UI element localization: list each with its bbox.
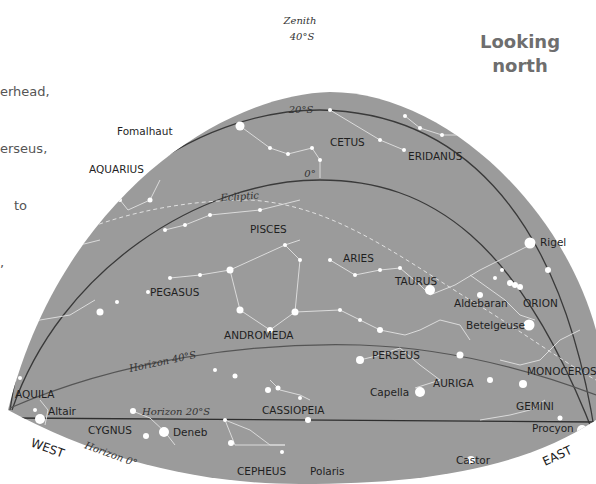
constellation-cetus: CETUS bbox=[330, 136, 365, 148]
view-title: Looking north bbox=[455, 30, 585, 78]
constellation-taurus: TAURUS bbox=[394, 275, 437, 287]
star-rigel: Rigel bbox=[540, 236, 566, 248]
horizon-20s-label: Horizon 20°S bbox=[141, 406, 210, 417]
constellation-aquarius: AQUARIUS bbox=[89, 163, 144, 175]
lat0-label: 0° bbox=[304, 168, 315, 179]
title-line-2: north bbox=[455, 54, 585, 78]
constellation-cepheus: CEPHEUS bbox=[237, 465, 287, 477]
constellation-andromeda: ANDROMEDA bbox=[224, 329, 294, 341]
title-line-1: Looking bbox=[455, 30, 585, 54]
constellation-aquila: AQUILA bbox=[15, 388, 55, 400]
star-betelgeuse: Betelgeuse bbox=[466, 319, 525, 331]
star-deneb: Deneb bbox=[173, 426, 208, 438]
constellation-perseus: PERSEUS bbox=[372, 349, 420, 361]
constellation-aries: ARIES bbox=[343, 252, 374, 264]
zenith-label: Zenith bbox=[283, 15, 317, 26]
constellation-auriga: AURIGA bbox=[433, 377, 474, 389]
star-altair: Altair bbox=[48, 405, 77, 417]
constellation-cassiopeia: CASSIOPEIA bbox=[262, 404, 325, 416]
star-capella: Capella bbox=[370, 386, 409, 398]
constellation-cygnus: CYGNUS bbox=[88, 424, 132, 436]
star-fomalhaut: Fomalhaut bbox=[117, 125, 173, 137]
constellation-pegasus: PEGASUS bbox=[150, 286, 200, 298]
constellation-pisces: PISCES bbox=[250, 223, 287, 235]
star-aldebaran: Aldebaran bbox=[454, 297, 508, 309]
star-procyon: Procyon bbox=[532, 422, 574, 434]
zenith-lat-label: 40°S bbox=[289, 31, 315, 42]
west-label: WEST bbox=[29, 436, 67, 461]
star-castor: Castor bbox=[456, 454, 491, 466]
star-polaris: Polaris bbox=[310, 465, 344, 477]
constellation-orion: ORION bbox=[523, 297, 558, 309]
constellation-monoceros: MONOCEROS bbox=[527, 365, 596, 377]
lat20-label: 20°S bbox=[288, 104, 314, 115]
constellation-eridanus: ERIDANUS bbox=[408, 150, 463, 162]
constellation-gemini: GEMINI bbox=[516, 400, 554, 412]
